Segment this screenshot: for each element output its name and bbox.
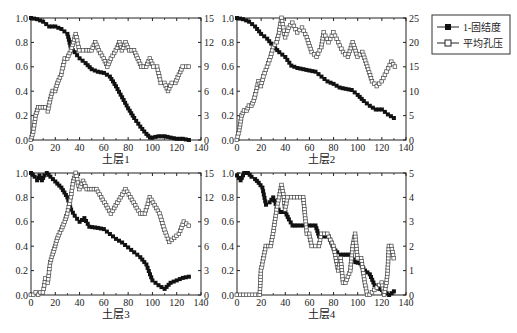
y-left-tick-label: 0.6	[16, 61, 29, 72]
y-left-tick-label: 1.0	[16, 168, 29, 179]
y-left-tick-label: 0.4	[16, 86, 29, 97]
x-axis-label: 土层4	[308, 308, 336, 320]
subplot-layer-1: 0204060801001201400.00.20.40.60.81.00369…	[16, 13, 215, 166]
y-left-tick-label: 0.2	[222, 265, 235, 276]
open-square-marker-icon	[392, 256, 396, 260]
open-square-marker-icon	[81, 49, 85, 53]
x-tick-label: 60	[304, 142, 314, 153]
open-square-marker-icon	[187, 224, 191, 228]
x-tick-label: 100	[145, 142, 160, 153]
open-square-marker-icon	[393, 65, 397, 69]
filled-square-marker-icon	[260, 186, 264, 190]
x-tick-label: 120	[374, 297, 389, 308]
legend-label-pore-pressure: 平均孔压	[463, 38, 503, 49]
y-right-tick-label: 9	[204, 61, 209, 72]
y-right-tick-label: 9	[204, 216, 209, 227]
x-tick-label: 80	[329, 297, 339, 308]
x-tick-label: 120	[374, 142, 389, 153]
x-tick-label: 40	[75, 297, 85, 308]
y-left-tick-label: 0.6	[222, 61, 235, 72]
x-tick-label: 120	[169, 297, 184, 308]
open-square-marker-icon	[152, 65, 156, 69]
y-left-tick-label: 0.2	[16, 265, 29, 276]
y-right-tick-label: 0	[409, 290, 414, 301]
y-right-tick-label: 25	[409, 13, 419, 24]
y-right-tick-label: 6	[204, 241, 209, 252]
x-tick-label: 40	[280, 297, 290, 308]
x-tick-label: 100	[350, 142, 365, 153]
filled-square-marker-icon	[263, 196, 267, 200]
open-square-marker-icon	[187, 65, 191, 69]
y-right-tick-label: 20	[409, 37, 419, 48]
y-left-tick-label: 1.0	[222, 13, 235, 24]
filled-square-marker-icon	[392, 116, 396, 120]
y-right-tick-label: 5	[409, 110, 414, 121]
open-square-marker-icon	[181, 65, 185, 69]
y-right-tick-label: 3	[204, 110, 209, 121]
y-left-tick-label: 0.8	[222, 192, 235, 203]
x-tick-label: 0	[235, 142, 240, 153]
y-left-tick-label: 0.0	[16, 290, 29, 301]
y-left-tick-label: 0.0	[222, 135, 235, 146]
y-right-tick-label: 12	[204, 192, 214, 203]
open-square-marker-icon	[314, 244, 318, 248]
y-left-tick-label: 0.6	[16, 216, 29, 227]
x-tick-label: 80	[329, 142, 339, 153]
x-tick-label: 0	[235, 297, 240, 308]
open-square-marker-icon	[159, 81, 163, 85]
x-tick-label: 60	[99, 297, 109, 308]
subplot-layer-4: 0204060801001201400.00.20.40.60.81.00123…	[222, 168, 415, 321]
x-tick-label: 60	[99, 142, 109, 153]
y-left-tick-label: 1.0	[16, 13, 29, 24]
y-left-tick-label: 0.4	[222, 86, 235, 97]
x-tick-label: 80	[123, 142, 133, 153]
x-tick-label: 40	[280, 142, 290, 153]
y-right-tick-label: 6	[204, 86, 209, 97]
y-left-tick-label: 0.4	[222, 241, 235, 252]
open-square-marker-icon	[41, 291, 45, 295]
subplot-layer-3: 0204060801001201400.00.20.40.60.81.00369…	[16, 168, 215, 321]
open-square-marker-icon	[235, 293, 239, 297]
filled-square-marker-icon	[264, 203, 268, 207]
x-tick-label: 0	[29, 297, 34, 308]
open-square-marker-icon	[78, 49, 82, 53]
y-right-tick-label: 1	[409, 265, 414, 276]
y-left-tick-label: 0.2	[222, 110, 235, 121]
x-tick-label: 120	[169, 142, 184, 153]
y-right-tick-label: 15	[204, 168, 214, 179]
legend: 1-固结度 平均孔压	[432, 15, 510, 54]
x-axis-label: 土层2	[308, 153, 336, 165]
open-square-marker-icon	[42, 287, 46, 291]
open-square-marker-icon	[170, 81, 174, 85]
open-square-marker-icon	[356, 256, 360, 260]
x-tick-label: 20	[256, 142, 266, 153]
y-right-tick-label: 2	[409, 241, 414, 252]
y-left-tick-label: 1.0	[222, 168, 235, 179]
x-tick-label: 60	[304, 297, 314, 308]
y-left-tick-label: 0.8	[222, 37, 235, 48]
open-square-marker-icon	[310, 244, 314, 248]
x-tick-label: 100	[350, 297, 365, 308]
filled-square-marker-icon	[187, 275, 191, 279]
x-tick-label: 20	[256, 297, 266, 308]
y-right-tick-label: 15	[409, 61, 419, 72]
y-left-tick-label: 0.4	[16, 241, 29, 252]
x-tick-label: 80	[123, 297, 133, 308]
y-right-tick-label: 3	[204, 265, 209, 276]
y-right-tick-label: 12	[204, 37, 214, 48]
x-tick-label: 20	[50, 297, 60, 308]
filled-square-marker-icon	[33, 175, 37, 179]
filled-square-marker-icon	[242, 171, 246, 175]
open-square-marker-icon	[286, 195, 290, 199]
open-square-marker-icon	[445, 40, 451, 46]
y-left-tick-label: 0.6	[222, 216, 235, 227]
x-tick-label: 0	[29, 142, 34, 153]
x-tick-label: 20	[50, 142, 60, 153]
x-tick-label: 40	[75, 142, 85, 153]
y-left-tick-label: 0.8	[16, 192, 29, 203]
figure-canvas: 0204060801001201400.00.20.40.60.81.00369…	[0, 0, 517, 333]
x-axis-label: 土层3	[102, 308, 130, 320]
filled-square-marker-icon	[250, 175, 254, 179]
y-left-tick-label: 0.8	[16, 37, 29, 48]
y-right-tick-label: 10	[409, 86, 419, 97]
